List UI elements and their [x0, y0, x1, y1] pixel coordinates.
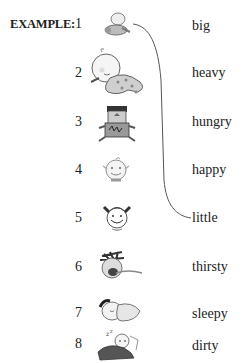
word-hungry: hungry	[192, 114, 232, 130]
word-thirsty: thirsty	[192, 259, 228, 275]
item-number-7: 7	[70, 305, 82, 321]
example-label: EXAMPLE:	[10, 17, 75, 32]
item-number-6: 6	[70, 259, 82, 275]
item-number-8: 8	[70, 336, 82, 352]
word-dirty: dirty	[192, 338, 218, 354]
small-baby-flying-icon	[100, 10, 132, 40]
svg-text:z: z	[110, 328, 113, 334]
word-happy: happy	[192, 162, 226, 178]
baby-in-bed-zzz-icon: z z	[96, 328, 144, 362]
word-little: little	[192, 210, 218, 226]
child-tongue-out-icon	[96, 250, 144, 284]
item-number-2: 2	[70, 65, 82, 81]
smiling-baby-face-icon	[100, 156, 132, 186]
baby-sleeping-icon	[98, 293, 144, 327]
word-sleepy: sleepy	[192, 306, 228, 322]
child-with-dessert-icon	[97, 104, 137, 144]
item-number-5: 5	[70, 210, 82, 226]
girl-pigtails-face-icon	[100, 201, 134, 235]
word-heavy: heavy	[192, 65, 225, 81]
item-number-1: 1	[70, 16, 82, 32]
item-number-4: 4	[70, 162, 82, 178]
svg-text:z: z	[106, 330, 109, 337]
word-big: big	[192, 18, 210, 34]
big-baby-polka-dot-icon	[88, 48, 150, 100]
item-number-3: 3	[70, 114, 82, 130]
